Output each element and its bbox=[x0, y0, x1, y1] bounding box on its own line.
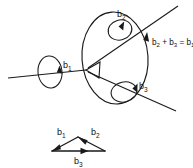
lower-circuit-arrowhead bbox=[132, 84, 137, 93]
triangle-edge-b2-arrowhead bbox=[78, 137, 88, 145]
left-burgers-circuit bbox=[36, 55, 63, 89]
triangle-edge-b3-arrowhead bbox=[81, 148, 89, 154]
label-b3-lower-text: b3 bbox=[139, 81, 148, 92]
label-b1-left: b1 bbox=[63, 60, 72, 71]
large-dislocation-loop bbox=[79, 10, 151, 106]
label-b2-upper: b2 bbox=[117, 9, 126, 20]
burgers-vector-equation: b2 + b3 = b1 bbox=[152, 38, 193, 48]
label-b2-upper-text: b2 bbox=[117, 9, 126, 20]
burgers-equation-text: b2 + b3 = b1 bbox=[152, 38, 193, 48]
triangle-label-b2: b2 bbox=[91, 127, 100, 138]
left-dislocation-line bbox=[8, 70, 86, 78]
upper-circuit-arrowhead bbox=[119, 22, 125, 31]
figure-canvas: b1 b2 b3 b2 + b3 = b1 bbox=[0, 0, 193, 168]
dislocation-diagram: b1 b2 b3 b2 + b3 = b1 bbox=[0, 0, 193, 168]
large-loop-ellipse bbox=[79, 10, 151, 106]
triangle-label-b1: b1 bbox=[57, 127, 66, 138]
triangle-label-b3: b3 bbox=[74, 156, 83, 167]
label-b1-left-text: b1 bbox=[63, 60, 72, 71]
triangle-edge-b1-arrowhead bbox=[52, 144, 62, 151]
label-b3-lower: b3 bbox=[139, 81, 148, 92]
lower-branch-line bbox=[88, 72, 176, 111]
burgers-vector-triangle: b1 b2 b3 bbox=[52, 127, 106, 167]
